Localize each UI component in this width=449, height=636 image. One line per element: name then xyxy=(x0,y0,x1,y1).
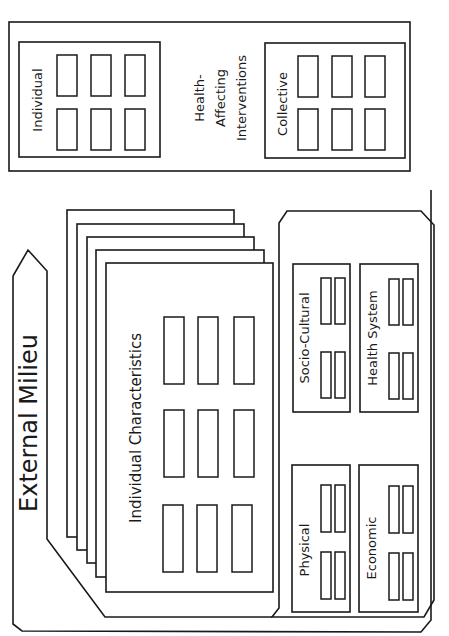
interventions-panel: Individual Health- Affecting Interventio… xyxy=(9,22,410,171)
cell xyxy=(164,410,184,477)
cell xyxy=(389,486,399,533)
cell xyxy=(164,317,184,384)
cell xyxy=(389,353,399,399)
health-determinants-diagram: Individual Health- Affecting Interventio… xyxy=(0,0,449,636)
cell xyxy=(403,353,413,399)
cell xyxy=(57,109,77,150)
collective-interventions-group: Collective xyxy=(265,43,405,158)
cell xyxy=(232,505,252,572)
interventions-title-line-3: Interventions xyxy=(234,55,249,141)
health-system-label: Health System xyxy=(365,290,380,385)
cell xyxy=(234,317,254,384)
cell xyxy=(198,317,218,384)
cell xyxy=(321,552,331,599)
individual-characteristics-label: Individual Characteristics xyxy=(127,333,145,523)
external-milieu-label: External Milieu xyxy=(15,334,43,512)
health-system-group: Health System xyxy=(360,264,418,412)
economic-label: Economic xyxy=(364,517,379,580)
cell xyxy=(403,486,413,533)
cell xyxy=(365,56,385,97)
cell xyxy=(332,56,352,97)
cell xyxy=(321,352,331,398)
collective-interventions-label: Collective xyxy=(275,72,290,136)
cell xyxy=(125,109,145,150)
collective-interventions-cells xyxy=(298,56,385,150)
cell xyxy=(197,505,217,572)
cell xyxy=(198,410,218,477)
individual-interventions-cells xyxy=(57,55,145,150)
cell xyxy=(298,56,318,97)
cell xyxy=(91,55,111,96)
socio-cultural-group: Socio-Cultural xyxy=(293,264,350,412)
individual-characteristics-cells xyxy=(163,317,254,572)
cell xyxy=(57,55,77,96)
cell xyxy=(91,109,111,150)
stack-page-front: Individual Characteristics xyxy=(106,263,273,592)
cell xyxy=(335,278,345,324)
cell xyxy=(321,485,331,532)
cell xyxy=(389,279,399,325)
cell xyxy=(163,505,183,572)
cell xyxy=(335,352,345,398)
cell xyxy=(298,109,318,150)
environment-panel: Socio-Cultural Health System Physical xyxy=(272,211,434,617)
individual-interventions-group: Individual xyxy=(19,42,160,157)
cell xyxy=(335,485,345,532)
cell xyxy=(234,410,254,477)
economic-group: Economic xyxy=(359,465,418,612)
interventions-title: Health- Affecting Interventions xyxy=(192,55,249,141)
individual-interventions-label: Individual xyxy=(30,68,45,131)
individual-characteristics-stack: Individual Characteristics xyxy=(67,210,273,592)
cell xyxy=(321,278,331,324)
socio-cultural-label: Socio-Cultural xyxy=(297,292,312,383)
cell xyxy=(403,279,413,325)
physical-label: Physical xyxy=(297,524,312,577)
cell xyxy=(365,109,385,150)
physical-group: Physical xyxy=(292,465,350,612)
cell xyxy=(125,55,145,96)
cell xyxy=(403,553,413,600)
interventions-title-line-1: Health- xyxy=(192,74,207,122)
cell xyxy=(335,552,345,599)
interventions-title-line-2: Affecting xyxy=(213,69,228,127)
cell xyxy=(389,553,399,600)
cell xyxy=(332,109,352,150)
